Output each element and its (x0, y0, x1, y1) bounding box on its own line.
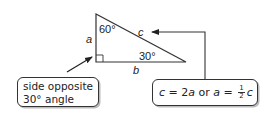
right-angle-marker (96, 55, 103, 62)
angle-60-label: 60° (99, 24, 116, 35)
arrow-to-side-a (67, 57, 92, 72)
callout-relationship: c = 2 a or a = 1 2 c (152, 79, 258, 106)
eq2-lhs: a (213, 86, 220, 99)
side-a-label: a (86, 34, 92, 45)
callout-left-line1: side opposite (23, 80, 98, 93)
eq1-rhs: a (188, 86, 195, 99)
or-text: or (195, 86, 213, 99)
eq2-rhs: c (247, 86, 253, 99)
arrow-to-side-c (152, 32, 205, 79)
callout-side-opposite: side opposite 30° angle (17, 77, 99, 107)
angle-30-label: 30° (139, 51, 156, 62)
side-c-label: c (138, 27, 144, 38)
eq1-eq: = 2 (165, 86, 188, 99)
frac-denominator: 2 (239, 93, 243, 100)
eq2-eq: = (220, 86, 236, 99)
side-b-label: b (133, 65, 139, 76)
fraction-one-half: 1 2 (238, 85, 244, 100)
callout-left-line2: 30° angle (23, 93, 98, 106)
